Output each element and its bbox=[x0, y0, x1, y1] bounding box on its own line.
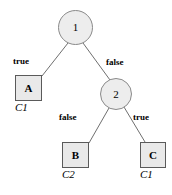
edge-node1-to-leafA bbox=[42, 43, 68, 76]
class-label-leaf-b: C2 bbox=[62, 169, 75, 180]
tree-leaf-c[interactable]: C bbox=[140, 142, 166, 168]
edge-node2-to-leafB bbox=[89, 108, 109, 143]
class-label-leaf-c: C1 bbox=[140, 169, 153, 180]
edge-label-true-bottom: true bbox=[133, 113, 149, 122]
edge-label-false-bottom: false bbox=[59, 113, 77, 122]
edge-label-false-top: false bbox=[106, 58, 124, 67]
tree-node-1[interactable]: 1 bbox=[58, 10, 93, 45]
tree-leaf-a[interactable]: A bbox=[15, 75, 42, 101]
tree-node-2-label: 2 bbox=[113, 89, 119, 100]
tree-leaf-a-label: A bbox=[25, 83, 33, 94]
tree-leaf-b-label: B bbox=[72, 150, 79, 161]
edge-label-true-top: true bbox=[13, 57, 29, 66]
tree-node-2[interactable]: 2 bbox=[100, 78, 132, 110]
class-label-leaf-a: C1 bbox=[15, 102, 28, 113]
tree-node-1-label: 1 bbox=[73, 22, 79, 33]
tree-leaf-b[interactable]: B bbox=[62, 142, 89, 168]
decision-tree-diagram: 1 2 A B C true false false true C1 C2 C1 bbox=[0, 0, 172, 195]
tree-leaf-c-label: C bbox=[149, 150, 157, 161]
